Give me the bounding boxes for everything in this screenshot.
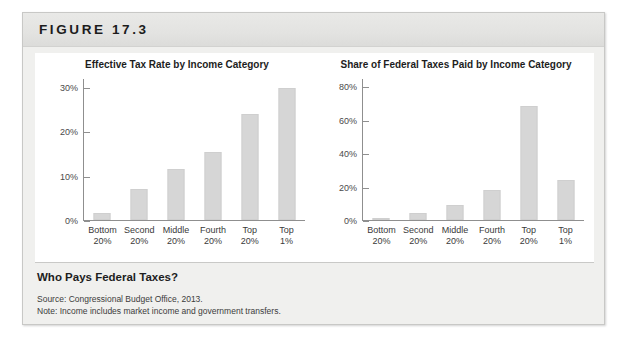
bar: [168, 169, 185, 220]
y-tick-label: 60%: [339, 116, 357, 126]
bar-slot: Bottom20%: [84, 79, 121, 220]
x-category-label: Second20%: [124, 225, 155, 247]
x-axis-left: [83, 220, 305, 221]
bar: [520, 106, 537, 220]
category-label-line: 1%: [558, 236, 573, 247]
category-label-line: 20%: [442, 236, 469, 247]
x-category-label: Fourth20%: [479, 225, 505, 247]
charts-area: Effective Tax Rate by Income Category 0%…: [35, 53, 594, 263]
category-label-line: 20%: [479, 236, 505, 247]
figure-number-label: FIGURE 17.3: [39, 22, 149, 37]
plot-area-left: 0%10%20%30% Bottom20%Second20%Middle20%F…: [83, 79, 305, 221]
bar: [483, 190, 500, 220]
category-label-line: 20%: [241, 236, 259, 247]
category-label-line: Top: [279, 225, 294, 236]
category-label-line: 20%: [124, 236, 155, 247]
category-label-line: Middle: [442, 225, 469, 236]
bar: [204, 152, 221, 220]
y-tick-label: 20%: [60, 127, 78, 137]
y-tick-mark: [363, 221, 369, 222]
category-label-line: Fourth: [479, 225, 505, 236]
caption-source: Source: Congressional Budget Office, 201…: [37, 294, 203, 304]
x-category-label: Top1%: [279, 225, 294, 247]
bar-slot: Fourth20%: [195, 79, 232, 220]
bar-group-left: Bottom20%Second20%Middle20%Fourth20%Top2…: [84, 79, 305, 220]
chart-effective-tax-rate: Effective Tax Rate by Income Category 0%…: [41, 53, 313, 263]
bar: [373, 218, 390, 220]
bar-slot: Middle20%: [158, 79, 195, 220]
category-label-line: Bottom: [88, 225, 117, 236]
x-category-label: Bottom20%: [88, 225, 117, 247]
y-tick-label: 0%: [65, 216, 78, 226]
chart-title-right: Share of Federal Taxes Paid by Income Ca…: [320, 59, 592, 70]
caption-title: Who Pays Federal Taxes?: [37, 271, 178, 283]
chart-share-federal-taxes: Share of Federal Taxes Paid by Income Ca…: [320, 53, 592, 263]
category-label-line: Top: [241, 225, 259, 236]
x-category-label: Bottom20%: [367, 225, 396, 247]
x-category-label: Second20%: [403, 225, 434, 247]
bar-slot: Top1%: [268, 79, 305, 220]
category-label-line: 20%: [163, 236, 190, 247]
category-label-line: Bottom: [367, 225, 396, 236]
category-label-line: 20%: [520, 236, 538, 247]
category-label-line: Top: [558, 225, 573, 236]
bar: [131, 189, 148, 220]
category-label-line: Second: [124, 225, 155, 236]
y-tick-label: 20%: [339, 183, 357, 193]
category-label-line: 20%: [200, 236, 226, 247]
bar-slot: Second20%: [400, 79, 437, 220]
y-tick-label: 80%: [339, 82, 357, 92]
bar: [94, 213, 111, 220]
bar-slot: Top20%: [510, 79, 547, 220]
category-label-line: 20%: [367, 236, 396, 247]
y-tick-mark: [84, 221, 90, 222]
bar-group-right: Bottom20%Second20%Middle20%Fourth20%Top2…: [363, 79, 584, 220]
category-label-line: 1%: [279, 236, 294, 247]
category-label-line: Top: [520, 225, 538, 236]
x-category-label: Top20%: [520, 225, 538, 247]
x-category-label: Top20%: [241, 225, 259, 247]
category-label-line: Second: [403, 225, 434, 236]
caption-note: Note: Income includes market income and …: [37, 306, 281, 316]
bar-slot: Second20%: [121, 79, 158, 220]
figure-header: FIGURE 17.3: [23, 13, 604, 47]
category-label-line: Middle: [163, 225, 190, 236]
bar: [278, 88, 295, 220]
bar-slot: Bottom20%: [363, 79, 400, 220]
category-label-line: 20%: [403, 236, 434, 247]
category-label-line: Fourth: [200, 225, 226, 236]
x-category-label: Middle20%: [163, 225, 190, 247]
caption-divider: [35, 262, 594, 263]
bar-slot: Top1%: [547, 79, 584, 220]
category-label-line: 20%: [88, 236, 117, 247]
figure-caption: Who Pays Federal Taxes? Source: Congress…: [23, 262, 604, 324]
y-tick-label: 10%: [60, 172, 78, 182]
y-tick-label: 0%: [344, 216, 357, 226]
y-tick-label: 40%: [339, 149, 357, 159]
x-category-label: Middle20%: [442, 225, 469, 247]
figure-panel: FIGURE 17.3 Effective Tax Rate by Income…: [22, 12, 605, 325]
bar: [557, 180, 574, 220]
plot-area-right: 0%20%40%60%80% Bottom20%Second20%Middle2…: [362, 79, 584, 221]
bar: [241, 114, 258, 220]
bar: [447, 205, 464, 220]
chart-title-left: Effective Tax Rate by Income Category: [41, 59, 313, 70]
x-axis-right: [362, 220, 584, 221]
bar-slot: Top20%: [231, 79, 268, 220]
y-tick-label: 30%: [60, 83, 78, 93]
x-category-label: Fourth20%: [200, 225, 226, 247]
x-category-label: Top1%: [558, 225, 573, 247]
bar: [410, 213, 427, 220]
bar-slot: Middle20%: [437, 79, 474, 220]
bar-slot: Fourth20%: [474, 79, 511, 220]
